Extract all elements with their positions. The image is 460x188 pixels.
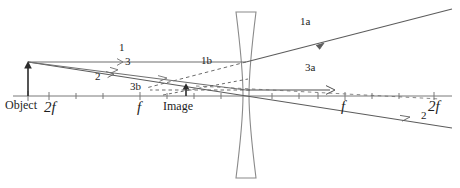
ray-diagram-canvas: 1 3 2 3b 1b 1a 3a 2 Object 2f f Image f … [0, 0, 460, 188]
two-f-right-label: 2f [428, 99, 440, 114]
image-label: Image [163, 100, 193, 112]
object-label: Object [5, 99, 37, 111]
ray-diagram-svg [0, 0, 460, 188]
ray-1a-label: 1a [300, 16, 310, 27]
ray-2-through-center [28, 62, 452, 128]
ray-3b-label: 3b [130, 81, 141, 92]
ray-3-label: 3 [125, 56, 131, 67]
ray-1-label: 1 [119, 42, 125, 53]
two-f-left-label: 2f [44, 100, 56, 115]
object-arrow [24, 61, 32, 96]
f-left-label: f [137, 100, 141, 115]
ray-2-right-label: 2 [421, 110, 427, 121]
ray-1a-refracted [246, 9, 452, 62]
f-right-label: f [341, 99, 345, 114]
ray-1b-label: 1b [201, 55, 212, 66]
ray-1-incident [28, 59, 246, 66]
ray-3a-label: 3a [305, 62, 315, 73]
ray-2-left-label: 2 [95, 71, 101, 82]
ray-3a-refracted [246, 86, 335, 95]
